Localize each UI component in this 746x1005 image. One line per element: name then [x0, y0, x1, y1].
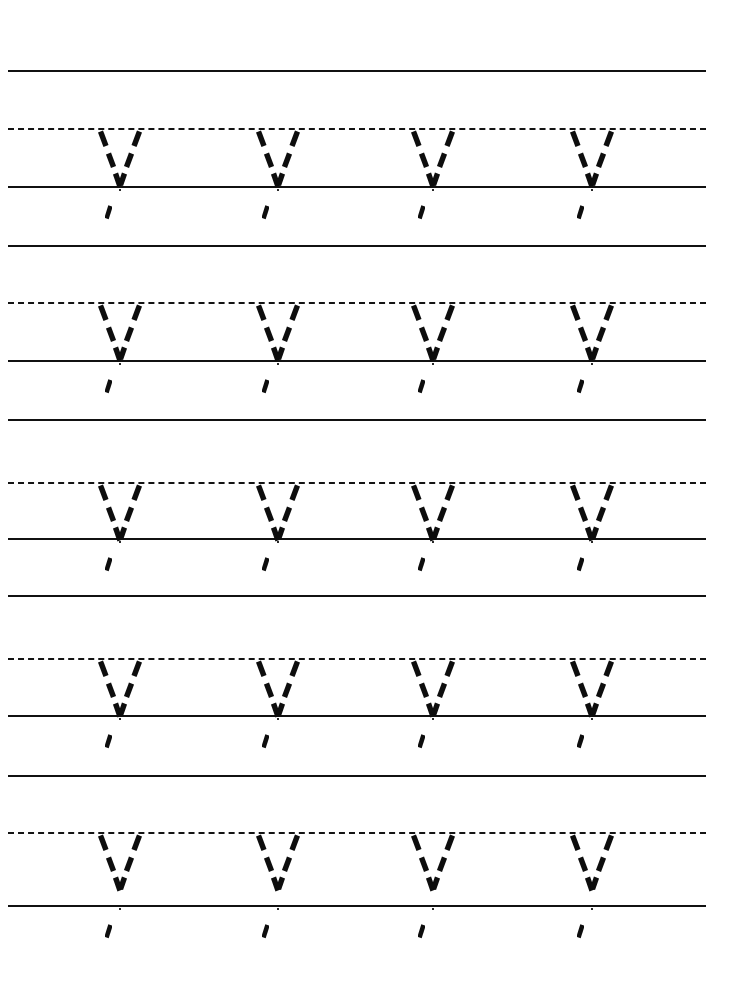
- letter-dash-segment: [599, 508, 604, 522]
- traceable-letter-v: [252, 128, 304, 190]
- tick-mark-stroke: [579, 380, 583, 393]
- letter-dash-segment: [440, 508, 445, 522]
- letter-dash-segment: [121, 348, 125, 360]
- traceable-letter-v: [252, 658, 304, 720]
- baseline-registration-dot: [432, 189, 434, 191]
- letter-dash-segment: [422, 684, 427, 698]
- letter-dash-segment: [434, 348, 438, 360]
- traceable-letter-v: [252, 302, 304, 364]
- letter-dash-segment: [414, 662, 420, 677]
- letter-dash-segment: [101, 486, 107, 501]
- letter-dash-segment: [414, 132, 420, 147]
- letter-dash-segment: [581, 328, 586, 342]
- letter-dash-segment: [573, 662, 579, 677]
- letter-dash-segment: [606, 662, 612, 677]
- baseline-registration-dot: [277, 189, 279, 191]
- letter-dash-segment: [581, 684, 586, 698]
- letter-dash-segment: [593, 348, 597, 360]
- traceable-letter-v: [252, 482, 304, 544]
- tick-mark-stroke: [264, 558, 268, 571]
- letter-dash-segment: [593, 704, 597, 716]
- letter-dash-segment: [593, 528, 597, 540]
- letter-dash-segment: [279, 878, 283, 890]
- letter-dash-segment: [440, 684, 445, 698]
- baseline-registration-dot: [591, 908, 593, 910]
- tick-mark-stroke: [420, 558, 424, 571]
- traceable-letter-v: [566, 302, 618, 364]
- letter-dash-segment: [259, 836, 265, 851]
- start-stroke-tick: [262, 924, 269, 939]
- tick-mark-stroke: [107, 735, 111, 748]
- tick-mark-stroke: [264, 735, 268, 748]
- tick-mark-stroke: [420, 925, 424, 938]
- letter-dash-segment: [101, 306, 107, 321]
- start-stroke-tick: [262, 205, 269, 220]
- traceable-letter-v: [94, 128, 146, 190]
- baseline-registration-dot: [119, 363, 121, 365]
- letter-dash-segment: [259, 486, 265, 501]
- letter-dash-segment: [121, 704, 125, 716]
- letter-dash-segment: [121, 528, 125, 540]
- start-stroke-tick: [105, 734, 112, 749]
- letter-dash-segment: [606, 486, 612, 501]
- letter-dash-segment: [447, 662, 453, 677]
- letter-dash-segment: [581, 508, 586, 522]
- baseline-registration-dot: [277, 363, 279, 365]
- letter-dash-segment: [109, 858, 114, 872]
- traceable-letter-v: [407, 482, 459, 544]
- letter-dash-segment: [134, 132, 140, 147]
- letter-dash-segment: [573, 486, 579, 501]
- traceable-letter-v: [407, 128, 459, 190]
- tick-mark-stroke: [579, 206, 583, 219]
- letter-dash-segment: [259, 662, 265, 677]
- letter-dash-segment: [259, 132, 265, 147]
- traceable-letter-v: [94, 832, 146, 894]
- letter-dash-segment: [581, 858, 586, 872]
- start-stroke-tick: [418, 734, 425, 749]
- letter-dash-segment: [447, 306, 453, 321]
- letter-dash-segment: [606, 836, 612, 851]
- traceable-letter-v: [407, 658, 459, 720]
- tick-mark-stroke: [420, 735, 424, 748]
- tick-mark-stroke: [107, 925, 111, 938]
- letter-dash-segment: [434, 878, 438, 890]
- letter-dash-segment: [434, 704, 438, 716]
- letter-dash-segment: [573, 132, 579, 147]
- traceable-letter-v: [94, 302, 146, 364]
- letter-dash-segment: [279, 174, 283, 186]
- letter-dash-segment: [267, 684, 272, 698]
- handwriting-worksheet-page: [0, 0, 746, 1005]
- start-stroke-tick: [105, 379, 112, 394]
- letter-dash-segment: [434, 528, 438, 540]
- start-stroke-tick: [262, 734, 269, 749]
- letter-dash-segment: [440, 328, 445, 342]
- letter-dash-segment: [422, 154, 427, 168]
- letter-dash-segment: [134, 662, 140, 677]
- letter-dash-segment: [134, 306, 140, 321]
- letter-dash-segment: [593, 878, 597, 890]
- start-stroke-tick: [577, 924, 584, 939]
- traceable-letter-v: [566, 128, 618, 190]
- baseline-registration-dot: [432, 541, 434, 543]
- tick-mark-stroke: [107, 558, 111, 571]
- tick-mark-stroke: [107, 206, 111, 219]
- letter-dash-segment: [447, 132, 453, 147]
- baseline-registration-dot: [119, 541, 121, 543]
- letter-dash-segment: [414, 486, 420, 501]
- letter-dash-segment: [127, 328, 132, 342]
- tick-mark-stroke: [264, 925, 268, 938]
- traceable-letter-v: [407, 832, 459, 894]
- traceable-letter-v: [94, 658, 146, 720]
- baseline-registration-dot: [591, 363, 593, 365]
- baseline-registration-dot: [591, 718, 593, 720]
- letter-dash-segment: [599, 684, 604, 698]
- letter-dash-segment: [127, 508, 132, 522]
- baseline-registration-dot: [591, 189, 593, 191]
- letter-dash-segment: [267, 858, 272, 872]
- traceable-letter-v: [566, 482, 618, 544]
- tick-mark-stroke: [420, 206, 424, 219]
- guide-line-cap-line-row-5: [8, 775, 706, 777]
- start-stroke-tick: [262, 557, 269, 572]
- letter-dash-segment: [285, 508, 290, 522]
- start-stroke-tick: [418, 379, 425, 394]
